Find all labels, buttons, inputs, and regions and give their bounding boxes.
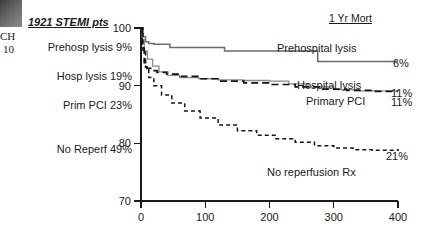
x-tick-label-0: 0 bbox=[138, 211, 144, 223]
series-value-primary-pci: 11% bbox=[391, 96, 412, 108]
series-value-prehospital-lysis: 6% bbox=[393, 57, 409, 69]
x-tick-label-400: 400 bbox=[389, 211, 407, 223]
series-label-hospital-lysis: Hospital lysis bbox=[297, 79, 361, 91]
chart-screenshot: CH 10 1921 STEMI pts Prehosp lysis 9% Ho… bbox=[0, 0, 424, 236]
x-tick-label-100: 100 bbox=[196, 211, 214, 223]
curve-prehospital-lysis bbox=[141, 28, 398, 61]
axes-group: 100 90 80 70 0 100 200 300 400 bbox=[113, 22, 408, 223]
y-tick-label-100: 100 bbox=[113, 22, 131, 34]
series-label-no-reperfusion: No reperfusion Rx bbox=[267, 166, 356, 178]
y-tick-label-80: 80 bbox=[119, 137, 131, 149]
series-label-primary-pci: Primary PCI bbox=[306, 95, 365, 107]
y-tick-label-90: 90 bbox=[119, 80, 131, 92]
y-axis-ticks bbox=[134, 28, 141, 201]
x-tick-label-300: 300 bbox=[325, 211, 343, 223]
x-tick-label-200: 200 bbox=[260, 211, 278, 223]
series-label-prehospital-lysis: Prehospital lysis bbox=[277, 42, 356, 54]
y-tick-label-70: 70 bbox=[119, 195, 131, 207]
survival-chart: 100 90 80 70 0 100 200 300 400 bbox=[0, 0, 424, 236]
x-axis-ticks bbox=[141, 201, 398, 208]
series-value-no-reperfusion: 21% bbox=[386, 150, 408, 162]
